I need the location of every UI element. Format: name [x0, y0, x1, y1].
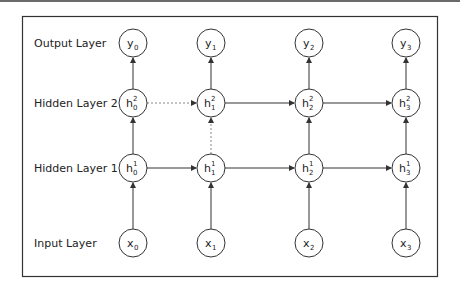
- node-h3-2: h 2 3: [392, 89, 420, 117]
- svg-text:y: y: [127, 37, 134, 50]
- svg-text:3: 3: [407, 44, 411, 52]
- svg-text:2: 2: [309, 104, 313, 112]
- svg-text:2: 2: [211, 95, 215, 103]
- svg-text:h: h: [204, 162, 211, 175]
- svg-text:x: x: [303, 237, 310, 250]
- svg-text:h: h: [126, 97, 133, 110]
- svg-text:3: 3: [407, 244, 411, 252]
- edges-h1-to-h2: [133, 118, 406, 154]
- node-x2: x 2: [295, 229, 323, 257]
- row-label-input: Input Layer: [34, 237, 97, 250]
- node-y0: y 0: [119, 29, 147, 57]
- svg-text:2: 2: [309, 95, 313, 103]
- node-h0-2: h 2 0: [119, 89, 147, 117]
- node-y2: y 2: [295, 29, 323, 57]
- row-label-hidden1: Hidden Layer 1: [34, 162, 118, 175]
- edges-h2-to-output: [133, 58, 406, 89]
- svg-text:h: h: [399, 97, 406, 110]
- node-h2-2: h 2 2: [295, 89, 323, 117]
- node-x3: x 3: [392, 229, 420, 257]
- svg-text:1: 1: [212, 244, 216, 252]
- node-y3: y 3: [392, 29, 420, 57]
- svg-text:x: x: [127, 237, 134, 250]
- svg-text:3: 3: [406, 104, 410, 112]
- svg-text:2: 2: [133, 95, 137, 103]
- svg-text:y: y: [400, 37, 407, 50]
- node-h2-1: h 1 2: [295, 154, 323, 182]
- edges-input-to-h1: [133, 183, 406, 229]
- node-h3-1: h 1 3: [392, 154, 420, 182]
- svg-text:h: h: [126, 162, 133, 175]
- svg-text:1: 1: [406, 160, 410, 168]
- svg-text:0: 0: [134, 244, 138, 252]
- svg-text:1: 1: [211, 104, 215, 112]
- svg-text:2: 2: [406, 95, 410, 103]
- input-nodes: x 0 x 1 x 2 x 3: [119, 229, 420, 257]
- node-h0-1: h 1 0: [119, 154, 147, 182]
- svg-text:2: 2: [309, 169, 313, 177]
- svg-text:1: 1: [211, 160, 215, 168]
- node-h1-2: h 2 1: [197, 89, 225, 117]
- node-x1: x 1: [197, 229, 225, 257]
- svg-text:2: 2: [310, 244, 314, 252]
- svg-text:0: 0: [133, 169, 137, 177]
- svg-text:h: h: [302, 162, 309, 175]
- node-y1: y 1: [197, 29, 225, 57]
- row-label-output: Output Layer: [34, 37, 107, 50]
- output-nodes: y 0 y 1 y 2 y 3: [119, 29, 420, 57]
- node-h1-1: h 1 1: [197, 154, 225, 182]
- node-x0: x 0: [119, 229, 147, 257]
- svg-text:2: 2: [310, 44, 314, 52]
- svg-text:1: 1: [212, 44, 216, 52]
- rnn-diagram: Output Layer Hidden Layer 2 Hidden Layer…: [0, 0, 460, 291]
- svg-text:h: h: [302, 97, 309, 110]
- svg-text:h: h: [204, 97, 211, 110]
- svg-text:1: 1: [133, 160, 137, 168]
- svg-text:x: x: [205, 237, 212, 250]
- svg-text:1: 1: [309, 160, 313, 168]
- row-label-hidden2: Hidden Layer 2: [34, 97, 118, 110]
- svg-text:1: 1: [211, 169, 215, 177]
- svg-text:y: y: [303, 37, 310, 50]
- svg-text:x: x: [400, 237, 407, 250]
- svg-text:h: h: [399, 162, 406, 175]
- svg-text:0: 0: [133, 104, 137, 112]
- svg-text:3: 3: [406, 169, 410, 177]
- svg-text:0: 0: [134, 44, 138, 52]
- svg-text:y: y: [205, 37, 212, 50]
